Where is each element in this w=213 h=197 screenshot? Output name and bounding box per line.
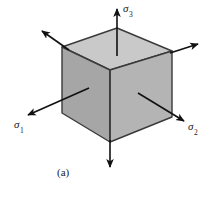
sigma1-subscript: 1 — [20, 126, 24, 135]
sigma1-back-arrow — [42, 31, 69, 50]
sigma2-label: σ2 — [188, 121, 197, 135]
stress-cube-diagram — [0, 0, 213, 197]
sigma2-symbol: σ — [188, 120, 193, 132]
sigma2-back-arrow — [170, 44, 198, 53]
stress-cube-figure: σ3 σ1 σ2 (a) — [0, 0, 213, 197]
sigma3-label: σ3 — [123, 3, 132, 17]
sigma1-label: σ1 — [14, 119, 23, 133]
sigma3-subscript: 3 — [129, 10, 133, 19]
figure-caption: (a) — [57, 167, 69, 178]
sigma3-symbol: σ — [123, 2, 128, 14]
sigma1-symbol: σ — [14, 118, 19, 130]
sigma2-subscript: 2 — [194, 128, 198, 137]
